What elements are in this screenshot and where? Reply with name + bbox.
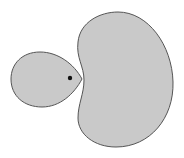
diagram-canvas — [0, 0, 184, 158]
dot-marker — [68, 76, 72, 80]
kidney-shape — [78, 12, 173, 147]
